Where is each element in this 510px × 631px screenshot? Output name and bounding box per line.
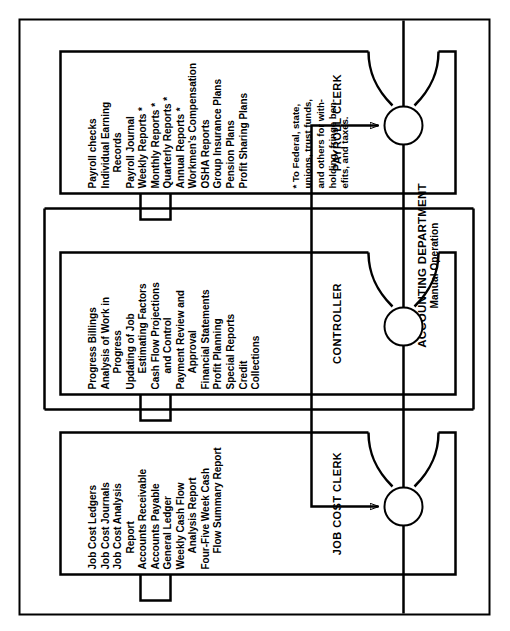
- title-subtitle: Manual Operation: [428, 145, 440, 385]
- duty-item: Credit: [237, 282, 250, 389]
- node-circle-payroll-clerk[interactable]: [383, 105, 423, 145]
- arc-jobcost-lower: [414, 432, 438, 486]
- duty-item: Group Insurance Plans: [211, 62, 224, 188]
- footnote-line: unions, trust funds,: [301, 98, 313, 188]
- duty-item: OSHA Reports: [199, 62, 212, 188]
- duty-item: Payroll checks: [86, 62, 99, 188]
- duty-item: Profit Sharing Plans: [237, 62, 250, 188]
- arc-payroll-lower: [414, 51, 438, 105]
- role-label-controller: CONTROLLER: [330, 255, 342, 391]
- duty-item: Weekly Reports *: [136, 62, 149, 188]
- duty-item: Financial Statements: [199, 282, 212, 389]
- duty-item: Cash Flow Projections: [149, 282, 162, 389]
- duty-item: Collections: [249, 282, 262, 389]
- footnote-line: * To Federal, state,: [289, 98, 301, 188]
- duty-item: Job Cost Ledgers: [86, 447, 99, 569]
- duty-item: Report: [124, 447, 137, 569]
- diagram-canvas: ACCOUNTING DEPARTMENT Manual Operation J…: [0, 0, 510, 631]
- arc-payroll-upper: [368, 51, 392, 105]
- duty-item: Pension Plans: [224, 62, 237, 188]
- node-circle-controller[interactable]: [383, 306, 423, 346]
- duty-item: Flow Summary Report: [211, 447, 224, 569]
- duty-item: Annual Reports *: [174, 62, 187, 188]
- duty-list-payroll-clerk: Payroll checksIndividual EarningRecordsP…: [86, 62, 249, 188]
- duty-item: Job Cost Journals: [99, 447, 112, 569]
- duty-item: Workmen's Compensation: [186, 62, 199, 188]
- duty-list-controller: Progress BillingsAnalysis of Work inProg…: [86, 282, 262, 389]
- duty-item: Special Reports: [224, 282, 237, 389]
- arc-controller-upper: [368, 252, 392, 306]
- page-title: ACCOUNTING DEPARTMENT Manual Operation: [414, 145, 440, 385]
- duty-item: Records: [111, 62, 124, 188]
- arc-jobcost-upper: [368, 432, 392, 486]
- duty-list-job-cost-clerk: Job Cost LedgersJob Cost JournalsJob Cos…: [86, 447, 224, 569]
- title-main: ACCOUNTING DEPARTMENT: [414, 145, 428, 385]
- duty-item: Accounts Payable: [149, 447, 162, 569]
- duty-item: Progress Billings: [86, 282, 99, 389]
- duty-item: Individual Earning: [99, 62, 112, 188]
- footnote-line: efits, and taxes.: [338, 98, 350, 188]
- duty-item: Progress: [111, 282, 124, 389]
- duty-item: and Control: [161, 282, 174, 389]
- duty-item: Job Cost Analysis: [111, 447, 124, 569]
- duty-item: Updating of Job: [124, 282, 137, 389]
- duty-item: Approval: [186, 282, 199, 389]
- duty-item: Weekly Cash Flow: [174, 447, 187, 569]
- bracket-payroll-step: [140, 193, 170, 219]
- duty-item: Analysis of Work in: [99, 282, 112, 389]
- footnote-line: holding, fringe ben-: [326, 98, 338, 188]
- bracket-controller-step: [140, 394, 170, 420]
- duty-item: Four-Five Week Cash: [199, 447, 212, 569]
- duty-item: Accounts Receivable: [136, 447, 149, 569]
- duty-item: Monthly Reports *: [149, 62, 162, 188]
- footnote-line: and others for with-: [314, 98, 326, 188]
- duty-item: Analysis Report: [186, 447, 199, 569]
- duty-item: Payment Review and: [174, 282, 187, 389]
- diagram-rotated-group: ACCOUNTING DEPARTMENT Manual Operation J…: [0, 0, 510, 631]
- node-circle-job-cost-clerk[interactable]: [383, 486, 423, 526]
- bracket-jobcost-step: [140, 574, 170, 600]
- role-label-job-cost-clerk: JOB COST CLERK: [330, 435, 342, 571]
- duty-item: General Ledger: [161, 447, 174, 569]
- duty-item: Estimating Factors: [136, 282, 149, 389]
- duty-item: Payroll Journal: [124, 62, 137, 188]
- duty-item: Quarterly Reports *: [161, 62, 174, 188]
- duty-item: Profit Planning: [211, 282, 224, 389]
- footnote-text: * To Federal, state,unions, trust funds,…: [289, 98, 350, 188]
